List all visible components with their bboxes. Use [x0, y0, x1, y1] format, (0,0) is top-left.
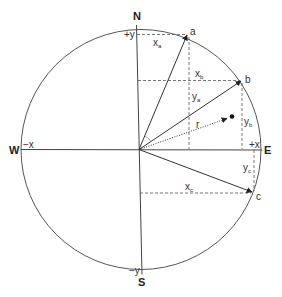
label-point-a: a [190, 26, 196, 37]
vector-c [139, 150, 252, 193]
vector-a [139, 35, 187, 150]
coordinate-circle-diagram: N S E W +y −y +x −x a b c xa xb ya yb yc… [0, 0, 282, 297]
label-ya: ya [192, 91, 201, 103]
label-r: r [196, 119, 200, 130]
label-plus-x: +x [249, 139, 260, 150]
label-south: S [138, 276, 145, 288]
label-west: W [9, 144, 20, 156]
label-yc: yc [243, 162, 251, 174]
label-north: N [133, 10, 141, 22]
label-xa: xa [153, 37, 162, 49]
label-xc: xc [185, 181, 193, 193]
label-minus-x: −x [23, 139, 34, 150]
vector-r [139, 119, 227, 150]
vector-b [139, 81, 241, 150]
point-dot-icon [230, 114, 235, 119]
label-point-b: b [245, 74, 251, 85]
label-point-c: c [256, 191, 261, 202]
label-xb: xb [195, 68, 204, 80]
label-plus-y: +y [124, 29, 135, 40]
label-yb: yb [244, 116, 253, 128]
angle-arc [145, 136, 151, 142]
label-minus-y: −y [129, 265, 140, 276]
label-east: E [264, 144, 271, 156]
